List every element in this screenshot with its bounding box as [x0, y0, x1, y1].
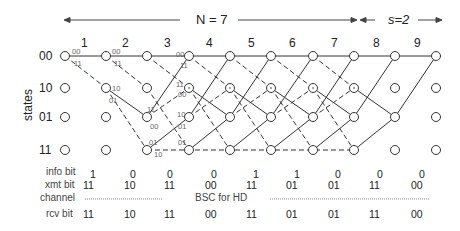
edge-label: 00 [150, 122, 158, 131]
rcv-bit: 11 [369, 208, 380, 220]
info-bit-label: info bit [46, 166, 75, 177]
channel-type: BSC for HD [195, 192, 247, 203]
rcv-bit: 01 [286, 208, 298, 220]
edge-label: 00 [112, 47, 120, 56]
states-axis-label: states [21, 89, 35, 121]
rcv-bit: 00 [411, 208, 423, 220]
column-label: 6 [289, 36, 296, 50]
xmt-bit: 00 [205, 179, 217, 191]
state-label: 10 [39, 81, 52, 95]
column-label: 1 [81, 36, 88, 50]
edge-label: 00 [176, 50, 184, 59]
edge-label: 11 [74, 59, 82, 68]
edge-label: 01 [149, 138, 157, 147]
rcv-bit: 11 [246, 208, 257, 220]
state-label: 11 [39, 143, 51, 157]
xmt-bit: 11 [246, 179, 257, 191]
channel-label: channel [40, 192, 75, 203]
s-label: s=2 [388, 12, 409, 27]
column-label: 2 [122, 36, 129, 50]
edge-label: 11 [176, 80, 184, 89]
edge-label: 01 [109, 96, 117, 105]
edge-label: 01 [178, 138, 186, 147]
edge-label: 11 [114, 59, 122, 68]
n-label: N = 7 [196, 12, 227, 27]
xmt-bit: 00 [411, 179, 423, 191]
rcv-bit: 00 [205, 208, 217, 220]
column-label: 3 [164, 36, 171, 50]
edge-label: 11 [147, 105, 155, 114]
rcv-bit: 11 [83, 208, 94, 220]
edge-label: 10 [112, 84, 120, 93]
column-label: 5 [248, 36, 255, 50]
rcv-bit: 11 [164, 208, 175, 220]
column-label: 7 [331, 36, 338, 50]
xmt-bit-label: xmt bit [45, 179, 74, 190]
column-label: 8 [373, 36, 380, 50]
xmt-bit: 01 [328, 179, 340, 191]
edge-label: 01 [178, 122, 186, 131]
state-label: 01 [39, 110, 52, 124]
xmt-bit: 11 [83, 179, 94, 191]
edge-label: 00 [178, 90, 186, 99]
column-label: 9 [414, 36, 421, 50]
rcv-bit: 01 [328, 208, 340, 220]
edge-label: 10 [154, 150, 162, 159]
xmt-bit: 01 [286, 179, 298, 191]
xmt-bit: 10 [124, 179, 136, 191]
state-label: 00 [39, 49, 52, 63]
edge-label: 10 [177, 110, 185, 119]
xmt-bit: 11 [369, 179, 380, 191]
edge-label: 00 [72, 47, 80, 56]
rcv-bit-label: rcv bit [46, 208, 73, 219]
xmt-bit: 11 [164, 179, 175, 191]
column-label: 4 [206, 36, 213, 50]
rcv-bit: 10 [124, 208, 136, 220]
edge-label: 11 [180, 61, 188, 70]
